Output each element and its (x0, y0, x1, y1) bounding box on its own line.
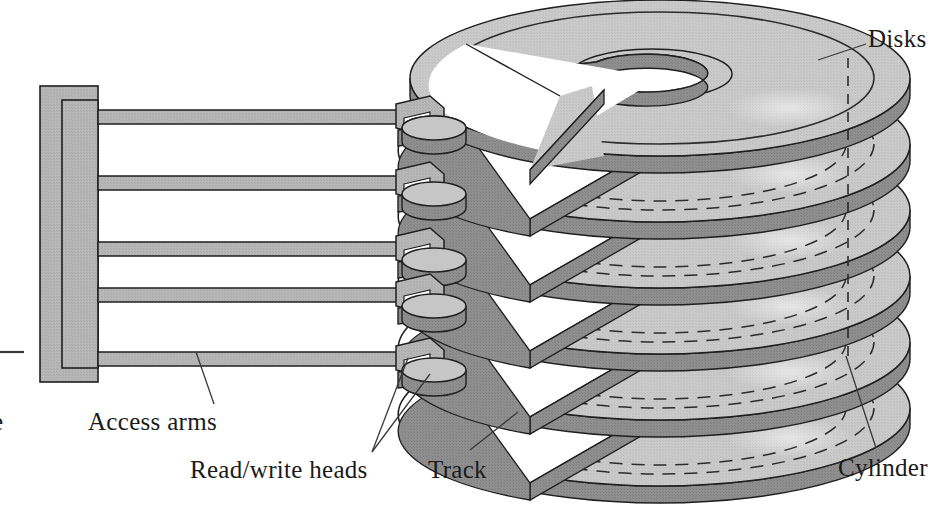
disk-drive-illustration (0, 0, 950, 522)
label-cylinder: Cylinder (838, 455, 928, 480)
access-arm-1 (98, 110, 398, 124)
label-partial-left-clipped: e (0, 409, 3, 434)
access-arm-2 (98, 176, 398, 190)
actuator-assembly (40, 86, 98, 382)
label-access-arms: Access arms (88, 409, 217, 434)
label-track: Track (428, 457, 487, 482)
access-arm-5 (98, 352, 398, 366)
figure-canvas: Disks Access arms Read/write heads Track… (0, 0, 950, 522)
label-disks: Disks (868, 26, 926, 51)
actuator-inner-shaft (62, 100, 98, 368)
access-arm-3 (98, 242, 398, 256)
label-read-write-heads: Read/write heads (190, 457, 368, 482)
access-arm-4 (98, 288, 398, 302)
